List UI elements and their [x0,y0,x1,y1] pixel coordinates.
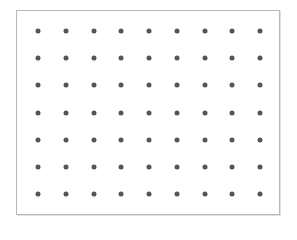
grid-dot [230,29,235,34]
grid-dot [91,192,96,197]
grid-dot [119,56,124,61]
grid-dot [63,83,68,88]
grid-dot [202,192,207,197]
grid-dot [202,137,207,142]
grid-dot [230,137,235,142]
grid-dot [63,192,68,197]
grid-dot [91,165,96,170]
grid-dot [202,165,207,170]
grid-dot [258,165,263,170]
grid-dot [91,56,96,61]
grid-dot [36,192,41,197]
grid-dot [230,83,235,88]
grid-dot [63,137,68,142]
grid-dot [258,83,263,88]
grid-dot [258,56,263,61]
grid-dot [36,29,41,34]
grid-dot [202,56,207,61]
grid-dot [147,192,152,197]
grid-dot [63,29,68,34]
grid-dot [230,192,235,197]
grid-dot [91,137,96,142]
grid-dot [230,165,235,170]
grid-dot [119,165,124,170]
grid-dot [147,110,152,115]
grid-dot [174,165,179,170]
grid-dot [258,137,263,142]
grid-dot [147,165,152,170]
grid-dot [174,192,179,197]
grid-dot [36,137,41,142]
grid-dot [36,165,41,170]
grid-dot [147,56,152,61]
grid-dot [91,83,96,88]
grid-dot [258,192,263,197]
grid-dot [174,137,179,142]
grid-dot [63,110,68,115]
grid-dot [202,110,207,115]
grid-dot [119,29,124,34]
grid-dot [119,137,124,142]
grid-dot [174,83,179,88]
grid-dot [147,83,152,88]
grid-dot [36,110,41,115]
grid-dot [147,137,152,142]
grid-dot [91,29,96,34]
grid-dot [119,192,124,197]
grid-dot [202,83,207,88]
grid-dot [119,83,124,88]
grid-dot [63,56,68,61]
grid-dot [258,110,263,115]
grid-dot [36,56,41,61]
grid-dot [174,110,179,115]
grid-dot [202,29,207,34]
grid-dot [36,83,41,88]
grid-dot [258,29,263,34]
grid-dot [230,110,235,115]
grid-dot [174,56,179,61]
grid-dot [91,110,96,115]
grid-dot [119,110,124,115]
grid-dot [230,56,235,61]
grid-dot [147,29,152,34]
grid-dot [174,29,179,34]
grid-dot [63,165,68,170]
